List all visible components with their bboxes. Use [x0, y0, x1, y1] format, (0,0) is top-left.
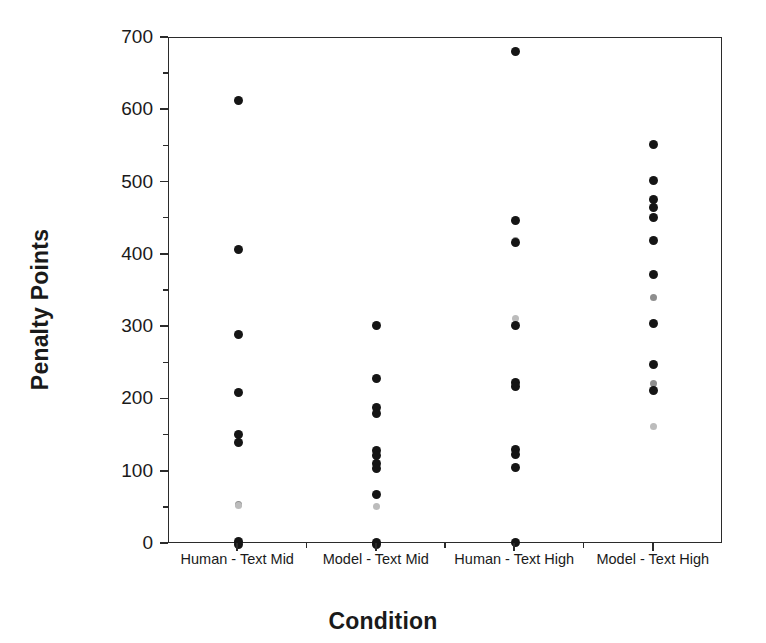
data-point	[511, 450, 520, 459]
data-point	[372, 321, 381, 330]
y-tick-minor	[163, 506, 168, 507]
y-tick-label: 600	[93, 99, 153, 118]
x-tick-minor	[583, 543, 584, 548]
y-tick-major	[160, 470, 168, 472]
data-point	[511, 47, 520, 56]
y-tick-minor	[163, 434, 168, 435]
y-tick-label: 400	[93, 244, 153, 263]
data-point	[649, 203, 658, 212]
data-point	[649, 140, 658, 149]
data-point	[649, 319, 658, 328]
x-tick	[236, 543, 238, 551]
data-point	[649, 195, 658, 204]
y-tick-label: 0	[93, 533, 153, 552]
data-point	[372, 374, 381, 383]
x-axis-title: Condition	[0, 608, 766, 635]
y-tick-label: 100	[93, 461, 153, 480]
y-tick-minor	[163, 72, 168, 73]
y-tick-label: 500	[93, 172, 153, 191]
y-tick-label: 200	[93, 388, 153, 407]
y-tick-major	[160, 398, 168, 400]
y-tick-label: 300	[93, 316, 153, 335]
y-tick-minor	[163, 145, 168, 146]
y-tick-major	[160, 108, 168, 110]
y-tick-minor	[163, 217, 168, 218]
y-tick-major	[160, 36, 168, 38]
data-point	[511, 538, 520, 547]
data-point	[234, 330, 243, 339]
data-point	[372, 464, 381, 473]
x-tick-minor	[306, 543, 307, 548]
y-tick-major	[160, 253, 168, 255]
chart-figure: Penalty Points 0100200300400500600700 Hu…	[0, 0, 766, 643]
data-point	[650, 423, 657, 430]
x-tick	[375, 543, 377, 551]
y-axis-title: Penalty Points	[27, 200, 54, 420]
data-point	[649, 213, 658, 222]
data-point	[373, 503, 380, 510]
x-tick	[652, 543, 654, 551]
data-point	[234, 540, 243, 549]
data-point	[234, 430, 243, 439]
data-point	[234, 96, 243, 105]
data-point	[234, 438, 243, 447]
y-tick-major	[160, 325, 168, 327]
x-tick	[513, 543, 515, 551]
data-point	[372, 540, 381, 549]
data-point	[372, 409, 381, 418]
data-point	[511, 216, 520, 225]
x-tick-label-3: Model - Text High	[563, 551, 743, 567]
data-point	[650, 294, 657, 301]
plot-area	[168, 37, 722, 543]
data-point	[234, 388, 243, 397]
y-tick-label: 700	[93, 27, 153, 46]
y-tick-minor	[163, 289, 168, 290]
data-point	[511, 238, 520, 247]
data-point	[649, 360, 658, 369]
data-point	[511, 463, 520, 472]
data-point	[649, 386, 658, 395]
data-point	[372, 490, 381, 499]
data-point	[511, 382, 520, 391]
data-point	[511, 321, 520, 330]
data-point	[234, 245, 243, 254]
data-point	[235, 502, 242, 509]
y-tick-major	[160, 181, 168, 183]
data-point	[649, 176, 658, 185]
y-tick-major	[160, 542, 168, 544]
y-tick-minor	[163, 362, 168, 363]
data-point	[649, 270, 658, 279]
data-point	[649, 236, 658, 245]
x-tick-minor	[444, 543, 445, 548]
